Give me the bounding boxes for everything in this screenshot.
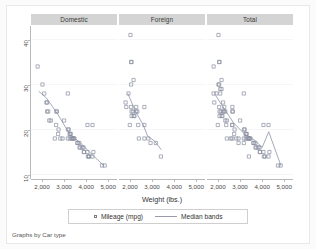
- scatter-point: [238, 119, 241, 122]
- x-axis-foreign: 2,0003,0004,0005,000: [119, 179, 205, 195]
- x-tick-label: 3,000: [232, 183, 247, 190]
- x-tick-label: 4,000: [78, 183, 93, 190]
- scatter-point: [220, 78, 223, 81]
- legend-label-mileage: Mileage (mpg): [101, 213, 143, 220]
- x-tick: [42, 179, 43, 182]
- scatter-point: [237, 141, 240, 144]
- scatter-point: [247, 155, 250, 158]
- scatter-point: [258, 150, 261, 153]
- scatter-point: [218, 105, 221, 108]
- scatter-point: [124, 101, 127, 104]
- scatter-point: [231, 105, 234, 108]
- scatter-point: [137, 137, 140, 140]
- y-tick-label: 30: [23, 85, 30, 92]
- scatter-point: [263, 155, 266, 158]
- scatter-point: [258, 150, 261, 153]
- scatter-point: [47, 110, 50, 113]
- x-tick: [240, 179, 241, 182]
- scatter-point: [267, 123, 270, 126]
- scatter-point: [221, 110, 224, 113]
- y-tick-label: 20: [23, 130, 30, 137]
- scatter-point: [45, 110, 48, 113]
- x-tick: [174, 179, 175, 182]
- legend: Mileage (mpg) Median bands: [68, 209, 248, 224]
- scatter-point: [137, 123, 140, 126]
- panels-container: [31, 26, 293, 179]
- scatter-point: [242, 137, 245, 140]
- scatter-point: [143, 105, 146, 108]
- x-tick: [86, 179, 87, 182]
- scatter-point: [242, 92, 245, 95]
- panel-total: [207, 26, 293, 179]
- x-tick-label: 4,000: [254, 183, 269, 190]
- x-tick: [130, 179, 131, 182]
- chart-root: Domestic Foreign Total 10203040 2,0003,0…: [0, 0, 316, 249]
- legend-item-mileage: Mileage (mpg): [94, 213, 144, 220]
- scatter-point: [262, 155, 265, 158]
- scatter-point: [82, 150, 85, 153]
- x-tick-label: 5,000: [100, 183, 115, 190]
- scatter-point: [233, 132, 236, 135]
- scatter-point: [129, 33, 132, 36]
- scatter-point: [217, 33, 220, 36]
- x-axis-title: Weight (lbs.): [31, 195, 293, 204]
- scatter-point: [79, 146, 82, 149]
- scatter-point: [86, 155, 89, 158]
- x-tick-label: 2,000: [122, 183, 137, 190]
- panel-title-strip: Domestic Foreign Total: [31, 14, 293, 25]
- scatter-point: [92, 150, 95, 153]
- x-tick: [64, 179, 65, 182]
- x-axis-total: 2,0003,0004,0005,000: [207, 179, 293, 195]
- x-tick-label: 2,000: [34, 183, 49, 190]
- scatter-point: [130, 105, 133, 108]
- x-tick: [108, 179, 109, 182]
- line-marker-icon: [155, 216, 177, 217]
- y-tick-label: 10: [23, 175, 30, 182]
- scatter-point: [132, 78, 135, 81]
- scatter-point: [212, 65, 215, 68]
- scatter-point: [128, 123, 131, 126]
- x-tick: [196, 179, 197, 182]
- scatter-point: [91, 123, 94, 126]
- scatter-point: [267, 155, 270, 158]
- scatter-point: [149, 141, 152, 144]
- scatter-point: [262, 150, 265, 153]
- scatter-point: [216, 123, 219, 126]
- x-tick: [218, 179, 219, 182]
- scatter-point: [221, 101, 224, 104]
- panel-title-total: Total: [207, 14, 293, 25]
- x-tick-label: 5,000: [188, 183, 203, 190]
- scatter-point: [159, 155, 162, 158]
- y-axis: 10203040: [0, 26, 31, 179]
- scatter-point: [55, 123, 58, 126]
- scatter-point: [225, 123, 228, 126]
- scatter-point: [53, 137, 56, 140]
- scatter-point: [86, 123, 89, 126]
- scatter-point: [235, 137, 238, 140]
- x-tick-label: 4,000: [166, 183, 181, 190]
- scatter-point: [87, 155, 90, 158]
- scatter-point: [237, 137, 240, 140]
- x-axis: 2,0003,0004,0005,000 2,0003,0004,0005,00…: [31, 179, 293, 195]
- scatter-point: [57, 132, 60, 135]
- panel-foreign: [119, 26, 205, 179]
- legend-item-median-bands: Median bands: [155, 213, 222, 220]
- scatter-point: [66, 137, 69, 140]
- scatter-point: [59, 137, 62, 140]
- chart-caption: Graphs by Car type: [12, 231, 66, 238]
- scatter-point: [125, 105, 128, 108]
- y-tick-label: 40: [23, 40, 30, 47]
- scatter-point: [36, 65, 39, 68]
- panel-title-foreign: Foreign: [119, 14, 205, 25]
- x-tick-label: 5,000: [276, 183, 291, 190]
- scatter-point: [220, 114, 223, 117]
- scatter-point: [143, 137, 146, 140]
- scatter-point: [87, 155, 90, 158]
- x-tick-label: 2,000: [210, 183, 225, 190]
- scatter-point: [82, 150, 85, 153]
- x-tick-label: 3,000: [56, 183, 71, 190]
- scatter-point: [219, 92, 222, 95]
- scatter-point: [66, 92, 69, 95]
- x-tick: [152, 179, 153, 182]
- scatter-point: [242, 141, 245, 144]
